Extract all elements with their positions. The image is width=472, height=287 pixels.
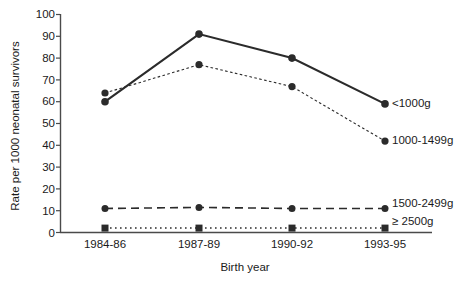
y-axis-tick-labels: 100 90 80 70 60 50 40 30 20 10 0 xyxy=(36,8,55,239)
data-point-marker xyxy=(382,205,389,212)
x-tick-1984-86: 1984-86 xyxy=(84,238,126,250)
data-point-marker xyxy=(382,225,389,232)
series-1000-1499g-line xyxy=(105,65,385,141)
x-axis-tick-labels: 1984-86 1987-89 1990-92 1993-95 xyxy=(84,238,406,250)
y-tick-50: 50 xyxy=(42,117,55,129)
data-point-marker xyxy=(195,30,203,38)
series-2500g-plus xyxy=(102,225,389,232)
y-tick-20: 20 xyxy=(42,183,55,195)
y-axis-ticks xyxy=(56,15,60,233)
y-tick-40: 40 xyxy=(42,139,55,151)
x-tick-1993-95: 1993-95 xyxy=(364,238,406,250)
line-chart: Rate per 1000 neonatal survivors 100 90 … xyxy=(0,0,472,287)
series-under-1000g xyxy=(101,30,389,107)
series-under-1000g-line xyxy=(105,34,385,104)
data-point-marker xyxy=(196,225,203,232)
y-tick-60: 60 xyxy=(42,95,55,107)
y-axis-title: Rate per 1000 neonatal survivors xyxy=(9,41,21,211)
series-1500-2499g-line xyxy=(105,207,385,208)
y-tick-70: 70 xyxy=(42,74,55,86)
y-tick-10: 10 xyxy=(42,205,55,217)
y-tick-80: 80 xyxy=(42,52,55,64)
y-tick-0: 0 xyxy=(49,227,55,239)
y-tick-90: 90 xyxy=(42,30,55,42)
series-label-1000-1499g: 1000-1499g xyxy=(392,134,453,146)
series-label-under-1000g: <1000g xyxy=(392,97,431,109)
data-point-marker xyxy=(381,100,389,108)
x-tick-1990-92: 1990-92 xyxy=(271,238,313,250)
data-point-marker xyxy=(196,204,203,211)
series-label-1500-2499g: 1500-2499g xyxy=(392,197,453,209)
data-point-marker xyxy=(289,205,296,212)
chart-container: Rate per 1000 neonatal survivors 100 90 … xyxy=(0,0,472,287)
y-tick-30: 30 xyxy=(42,161,55,173)
data-point-marker xyxy=(288,54,296,62)
data-point-marker xyxy=(289,225,296,232)
data-point-marker xyxy=(102,205,109,212)
x-axis-title: Birth year xyxy=(220,261,269,273)
data-point-marker xyxy=(195,61,202,68)
series-1500-2499g xyxy=(102,204,389,212)
y-tick-100: 100 xyxy=(36,8,55,20)
data-point-marker xyxy=(102,225,109,232)
data-point-marker xyxy=(381,138,388,145)
data-point-marker xyxy=(288,83,295,90)
series-label-2500g-plus: ≥ 2500g xyxy=(392,215,434,227)
data-point-marker xyxy=(101,98,109,106)
x-tick-1987-89: 1987-89 xyxy=(178,238,220,250)
data-point-marker xyxy=(101,89,108,96)
